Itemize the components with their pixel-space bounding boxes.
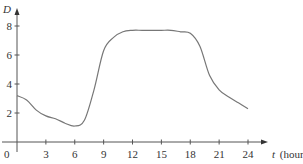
x-tick-label: 18 bbox=[185, 148, 197, 160]
x-ticks: 3691215182124 bbox=[43, 140, 254, 161]
x-axis-unit: (hours) bbox=[280, 148, 303, 161]
origin-label: 0 bbox=[4, 148, 10, 160]
x-tick-label: 12 bbox=[127, 148, 138, 160]
y-tick-label: 8 bbox=[7, 20, 13, 32]
y-axis-label: D bbox=[2, 3, 11, 15]
y-tick-label: 2 bbox=[7, 107, 13, 119]
x-axis-label: t (hours) bbox=[272, 148, 303, 161]
y-axis-arrow-icon bbox=[15, 8, 20, 15]
x-tick-label: 21 bbox=[214, 148, 225, 160]
chart: 3691215182124 2468 D 0 t (hours) bbox=[0, 0, 303, 164]
x-axis-variable: t bbox=[272, 148, 276, 160]
x-tick-label: 9 bbox=[101, 148, 107, 160]
data-curve bbox=[17, 30, 248, 126]
x-tick-label: 3 bbox=[43, 148, 49, 160]
x-tick-label: 24 bbox=[243, 148, 255, 160]
y-tick-label: 4 bbox=[7, 78, 13, 90]
y-ticks: 2468 bbox=[7, 20, 20, 119]
x-axis-arrow-icon bbox=[261, 140, 268, 145]
x-tick-label: 15 bbox=[156, 148, 168, 160]
y-tick-label: 6 bbox=[7, 49, 13, 61]
x-tick-label: 6 bbox=[72, 148, 78, 160]
